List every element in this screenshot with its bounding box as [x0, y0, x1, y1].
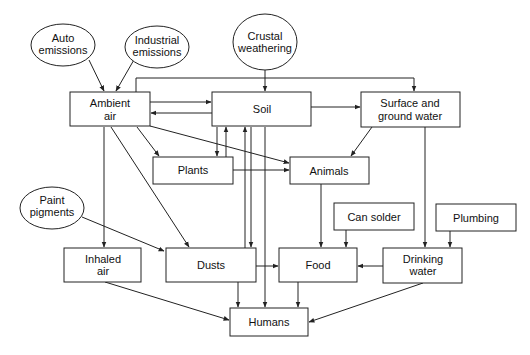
edge-ambient-plants: [137, 127, 159, 156]
node-label: Crustal: [248, 30, 283, 42]
node-label: weathering: [237, 42, 292, 54]
node-label: water: [409, 265, 437, 277]
node-label: Plumbing: [453, 212, 499, 224]
node-label: air: [104, 110, 117, 122]
node-label: Animals: [309, 165, 349, 177]
edge-inhaled-humans: [105, 282, 229, 320]
edge-surface-animals: [351, 127, 372, 156]
node-label: pigments: [30, 206, 75, 218]
node-food: Food: [279, 248, 357, 282]
node-label: Inhaled: [85, 253, 121, 265]
node-crustal-weathering: Crustal weathering: [233, 14, 297, 70]
node-humans: Humans: [230, 308, 308, 336]
node-soil: Soil: [212, 92, 311, 126]
node-animals: Animals: [290, 157, 369, 184]
edge-ambient-surface: [136, 78, 414, 92]
node-industrial-emissions: Industrial emissions: [125, 26, 189, 68]
edge-paint-dusts: [82, 217, 164, 251]
node-label: Soil: [253, 103, 271, 115]
node-plants: Plants: [153, 157, 233, 184]
node-label: Surface and: [380, 97, 439, 109]
node-label: Auto: [52, 32, 75, 44]
node-label: Paint: [39, 194, 64, 206]
node-drinking-water: Drinking water: [383, 248, 462, 283]
node-paint-pigments: Paint pigments: [20, 187, 84, 229]
node-ambient-air: Ambient air: [70, 92, 150, 126]
node-label: Can solder: [347, 211, 401, 223]
node-label: emissions: [133, 46, 182, 58]
node-label: Drinking: [403, 253, 443, 265]
node-label: ground water: [378, 110, 443, 122]
node-inhaled-air: Inhaled air: [64, 248, 141, 282]
node-label: Dusts: [197, 259, 226, 271]
node-auto-emissions: Auto emissions: [31, 24, 95, 66]
node-label: Industrial: [135, 34, 180, 46]
edge-auto-ambient: [89, 60, 104, 91]
node-label: Food: [305, 259, 330, 271]
edge-ambient-dusts: [111, 127, 189, 247]
lead-exposure-pathways-diagram: Auto emissions Industrial emissions Crus…: [0, 0, 530, 355]
node-label: air: [97, 265, 110, 277]
node-plumbing: Plumbing: [436, 204, 516, 231]
node-dusts: Dusts: [166, 248, 256, 282]
node-label: emissions: [39, 44, 88, 56]
edge-industrial-ambient: [116, 58, 135, 91]
node-label: Plants: [178, 164, 209, 176]
edge-drinking-humans: [309, 283, 423, 322]
node-label: Ambient: [90, 97, 130, 109]
node-can-solder: Can solder: [334, 203, 414, 230]
node-label: Humans: [249, 316, 290, 328]
node-surface-ground-water: Surface and ground water: [361, 92, 460, 127]
